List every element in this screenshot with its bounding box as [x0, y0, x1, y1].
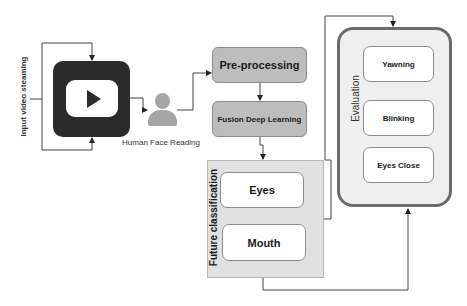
feature-item-eyes: Eyes: [220, 172, 304, 208]
evaluation-title: Evaluation: [350, 59, 361, 139]
video-source-node: [53, 61, 130, 137]
person-icon: [148, 110, 177, 126]
fusion-deep-learning-node: Fusion Deep Learning: [212, 101, 307, 137]
input-video-label: Input video steaming: [19, 47, 28, 147]
face-reading-label: Human Face Reading: [118, 138, 204, 147]
play-triangle-icon: [87, 90, 101, 108]
evaluation-item-eyes-close: Eyes Close: [363, 147, 434, 183]
evaluation-item-yawning: Yawning: [363, 46, 434, 82]
feature-classification-title: Future classification: [208, 160, 219, 276]
preprocessing-node: Pre-processing: [212, 47, 307, 83]
feature-item-mouth: Mouth: [222, 224, 306, 261]
video-play-icon: [66, 80, 118, 117]
evaluation-item-blinking: Blinking: [363, 100, 434, 136]
person-icon-head: [155, 93, 170, 109]
